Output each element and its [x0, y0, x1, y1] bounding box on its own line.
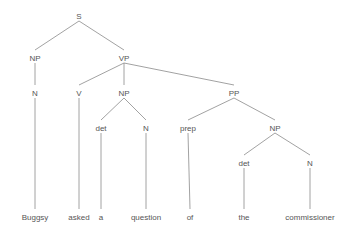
tree-edge	[188, 133, 190, 209]
tree-edge	[35, 21, 79, 50]
tree-node-n: N	[32, 89, 38, 98]
tree-edges	[35, 21, 310, 209]
leaf-word: asked	[68, 213, 89, 222]
tree-edge	[188, 98, 234, 120]
tree-edge	[124, 63, 234, 85]
tree-node-np: NP	[269, 124, 280, 133]
tree-node-prep: prep	[180, 124, 197, 133]
leaf-word: a	[99, 213, 104, 222]
tree-edge	[234, 98, 275, 120]
leaf-word: Buggsy	[22, 213, 49, 222]
tree-edge	[124, 98, 146, 120]
tree-node-np: NP	[118, 89, 129, 98]
tree-node-s: S	[76, 12, 81, 21]
tree-node-pp: PP	[229, 89, 240, 98]
leaf-word: commissioner	[285, 213, 335, 222]
tree-edge	[79, 63, 124, 85]
tree-node-det: det	[238, 159, 250, 168]
tree-edge	[101, 98, 124, 120]
tree-edge	[275, 133, 310, 155]
parse-tree-diagram: SNPVPNVNPPPdetNprepNPdetNBuggsyaskedaque…	[0, 0, 352, 235]
tree-node-det: det	[95, 124, 107, 133]
tree-node-v: V	[76, 89, 82, 98]
tree-edge	[244, 133, 275, 155]
tree-nodes: SNPVPNVNPPPdetNprepNPdetNBuggsyaskedaque…	[22, 12, 335, 222]
tree-node-np: NP	[29, 54, 40, 63]
leaf-word: of	[187, 213, 194, 222]
leaf-word: question	[131, 213, 161, 222]
leaf-word: the	[238, 213, 250, 222]
tree-node-n: N	[143, 124, 149, 133]
tree-node-vp: VP	[119, 54, 130, 63]
tree-edge	[79, 21, 124, 50]
tree-node-n: N	[307, 159, 313, 168]
